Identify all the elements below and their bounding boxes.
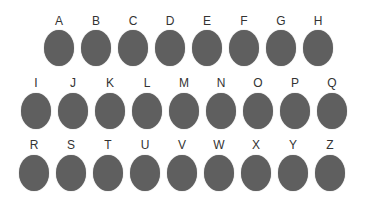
letter-label: M <box>169 76 199 90</box>
letter-circle-button[interactable] <box>206 93 236 129</box>
letter-circle-button[interactable] <box>167 155 197 191</box>
letter-label: E <box>192 14 222 28</box>
letter-label: B <box>81 14 111 28</box>
letter-label: W <box>204 138 234 152</box>
letter-label: H <box>303 14 333 28</box>
letter-label: J <box>58 76 88 90</box>
letter-label: K <box>95 76 125 90</box>
letter-label: A <box>44 14 74 28</box>
letter-label: C <box>118 14 148 28</box>
letter-label: X <box>241 138 271 152</box>
letter-circle-button[interactable] <box>118 30 148 66</box>
letter-circle-button[interactable] <box>243 93 273 129</box>
letter-label: V <box>167 138 197 152</box>
letter-circle-button[interactable] <box>229 30 259 66</box>
letter-label: R <box>19 138 49 152</box>
letter-label: D <box>155 14 185 28</box>
letter-circle-button[interactable] <box>21 93 51 129</box>
letter-label: F <box>229 14 259 28</box>
letter-label: P <box>280 76 310 90</box>
letter-label: N <box>206 76 236 90</box>
letter-circle-button[interactable] <box>44 30 74 66</box>
letter-circle-button[interactable] <box>132 93 162 129</box>
letter-circle-button[interactable] <box>56 155 86 191</box>
letter-circle-button[interactable] <box>130 155 160 191</box>
letter-label: I <box>21 76 51 90</box>
letter-circle-button[interactable] <box>95 93 125 129</box>
letter-label: L <box>132 76 162 90</box>
letter-circle-button[interactable] <box>155 30 185 66</box>
letter-circle-button[interactable] <box>81 30 111 66</box>
letter-label: Y <box>278 138 308 152</box>
letter-circle-button[interactable] <box>241 155 271 191</box>
letter-circle-button[interactable] <box>169 93 199 129</box>
letter-label: O <box>243 76 273 90</box>
letter-label: S <box>56 138 86 152</box>
letter-circle-button[interactable] <box>58 93 88 129</box>
letter-circle-button[interactable] <box>192 30 222 66</box>
letter-label: Q <box>317 76 347 90</box>
letter-label: U <box>130 138 160 152</box>
letter-circle-button[interactable] <box>303 30 333 66</box>
letter-circle-button[interactable] <box>93 155 123 191</box>
letter-circle-button[interactable] <box>280 93 310 129</box>
letter-label: T <box>93 138 123 152</box>
letter-circle-button[interactable] <box>317 93 347 129</box>
letter-circle-button[interactable] <box>204 155 234 191</box>
letter-circle-button[interactable] <box>19 155 49 191</box>
letter-circle-button[interactable] <box>315 155 345 191</box>
letter-label: G <box>266 14 296 28</box>
letter-circle-button[interactable] <box>278 155 308 191</box>
letter-label: Z <box>315 138 345 152</box>
letter-circle-button[interactable] <box>266 30 296 66</box>
